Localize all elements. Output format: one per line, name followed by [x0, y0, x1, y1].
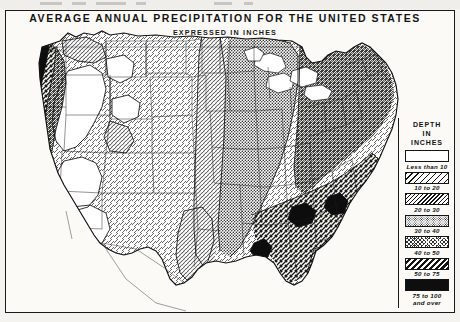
legend-swatch-crosshatch [405, 236, 449, 248]
legend-swatch-diagonal-medium [405, 193, 449, 205]
legend-title-line3: INCHES [403, 138, 451, 147]
legend-item-75-100: 75 to 100 and over [403, 279, 451, 307]
legend-item-50-75: 50 to 75 [403, 258, 451, 279]
map-page: AVERAGE ANNUAL PRECIPITATION FOR THE UNI… [0, 0, 460, 322]
legend-swatch-blank [405, 150, 449, 162]
legend-label: 40 to 50 [403, 249, 451, 257]
legend-label-line2: and over [403, 299, 451, 307]
legend-title-line1: DEPTH [403, 120, 451, 129]
legend-label-line1: 75 to 100 [403, 292, 451, 300]
legend-label: 30 to 40 [403, 227, 451, 235]
legend-label: 50 to 75 [403, 270, 451, 278]
legend-label: Less than 10 [403, 163, 451, 171]
legend: DEPTH IN INCHES Less than 10 10 to 20 20… [398, 118, 454, 308]
legend-title: DEPTH IN INCHES [403, 120, 451, 147]
map-canvas [6, 11, 454, 312]
legend-swatch-solid-black [405, 279, 449, 291]
legend-swatch-diagonal-bold [405, 258, 449, 270]
legend-label: 10 to 20 [403, 184, 451, 192]
legend-item-40-50: 40 to 50 [403, 236, 451, 257]
legend-item-10-20: 10 to 20 [403, 172, 451, 193]
legend-swatch-stipple-dense [405, 215, 449, 227]
legend-label: 75 to 100 and over [403, 292, 451, 307]
legend-swatch-diagonal-light [405, 172, 449, 184]
legend-label: 20 to 30 [403, 206, 451, 214]
scan-artifact [0, 0, 460, 9]
legend-item-20-30: 20 to 30 [403, 193, 451, 214]
legend-item-less-than-10: Less than 10 [403, 150, 451, 171]
legend-title-line2: IN [403, 129, 451, 138]
legend-item-30-40: 30 to 40 [403, 215, 451, 236]
